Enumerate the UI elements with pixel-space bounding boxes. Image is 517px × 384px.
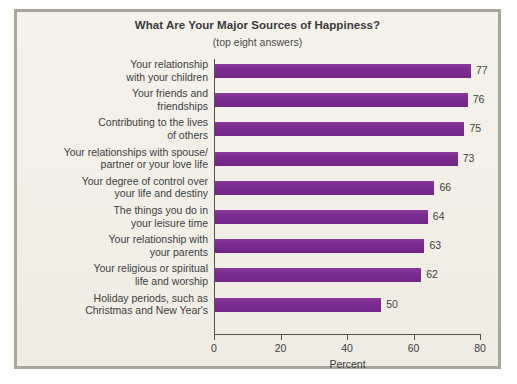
category-label: Holiday periods, such as Christmas and N…: [85, 292, 208, 317]
x-axis-tick: [347, 335, 348, 340]
category-label: Contributing to the lives of others: [98, 116, 208, 141]
category-label: Your religious or spiritual life and wor…: [93, 262, 208, 287]
x-axis-tick-label: 80: [474, 342, 486, 355]
bar: [215, 64, 471, 78]
x-axis-tick: [214, 335, 215, 340]
category-label: The things you do in your leisure time: [113, 204, 208, 229]
x-axis-tick: [480, 335, 481, 340]
plot-area: Your relationship with your childrenYour…: [214, 59, 480, 334]
category-label: Your relationships with spouse/ partner …: [64, 146, 208, 171]
bar: [215, 239, 424, 253]
bar: [215, 152, 458, 166]
bar: [215, 298, 381, 312]
category-label: Your relationship with your parents: [109, 233, 208, 258]
bar-value-label: 62: [426, 267, 438, 282]
bar: [215, 210, 428, 224]
category-label: Your degree of control over your life an…: [82, 175, 208, 200]
category-label: Your relationship with your children: [126, 58, 208, 83]
bar-value-label: 63: [429, 238, 441, 253]
bar-value-label: 66: [439, 180, 451, 195]
bar-value-label: 50: [386, 297, 398, 312]
bar: [215, 93, 468, 107]
bar: [215, 181, 434, 195]
chart-title-block: What Are Your Major Sources of Happiness…: [17, 18, 498, 50]
x-axis-tick-label: 0: [211, 342, 217, 355]
bar-value-label: 73: [463, 151, 475, 166]
chart-screenshot: What Are Your Major Sources of Happiness…: [0, 0, 517, 384]
bar-value-label: 76: [473, 92, 485, 107]
bar: [215, 268, 421, 282]
chart-subtitle: (top eight answers): [17, 35, 498, 50]
category-label: Your friends and friendships: [132, 87, 208, 112]
x-axis-title: Percent: [214, 358, 481, 370]
x-axis-tick-label: 40: [341, 342, 353, 355]
category-label-group: Your relationship with your childrenYour…: [18, 59, 208, 334]
x-axis-tick: [414, 335, 415, 340]
x-axis-tick: [281, 335, 282, 340]
x-axis-tick-label: 20: [275, 342, 287, 355]
bar: [215, 122, 464, 136]
bar-value-label: 64: [433, 209, 445, 224]
bar-value-label: 75: [469, 121, 481, 136]
chart-frame: What Are Your Major Sources of Happiness…: [14, 9, 501, 369]
chart-title: What Are Your Major Sources of Happiness…: [17, 18, 498, 33]
x-axis-tick-label: 60: [408, 342, 420, 355]
bar-value-label: 77: [476, 63, 488, 78]
